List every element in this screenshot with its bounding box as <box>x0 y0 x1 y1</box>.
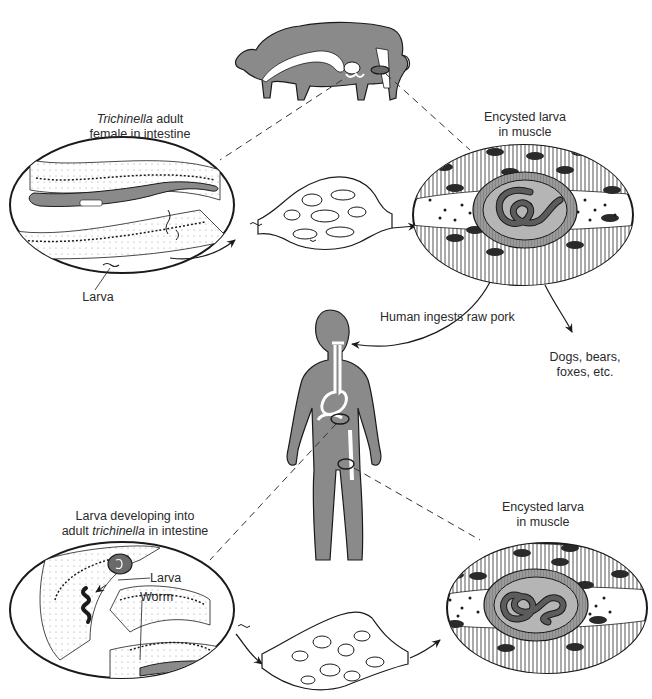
pig-intestine-caption: Trichinella adult female in intestine <box>70 112 210 142</box>
human-intestine-caption: Larva developing into adult trichinella … <box>60 509 210 539</box>
human-intestine-larva-label: Larva <box>150 571 186 586</box>
caption-text: Encysted larva <box>484 110 566 124</box>
larva-label: Larva <box>78 290 118 305</box>
human-ingests-label: Human ingests raw pork <box>380 310 510 325</box>
caption-text: Dogs, bears, <box>550 350 621 364</box>
caption-text: adult <box>153 112 184 126</box>
caption-text: in muscle <box>499 125 552 139</box>
human-muscle-caption: Encysted larva in muscle <box>488 500 598 530</box>
human-silhouette-icon <box>287 310 381 560</box>
pig-muscle-caption: Encysted larva in muscle <box>470 110 580 140</box>
pig-intestine-oval-icon <box>10 137 234 273</box>
arrow-vessel-to-muscle <box>392 226 416 228</box>
pig-vessel-network-icon <box>250 177 392 250</box>
other-hosts-label: Dogs, bears, foxes, etc. <box>545 350 625 380</box>
caption-text: Larva developing into <box>76 509 195 523</box>
human-intestine-worm-label: Worm <box>140 590 180 605</box>
arrow-to-other-hosts <box>545 285 572 332</box>
caption-text: female in intestine <box>90 127 191 141</box>
arrow-vessel-to-muscle <box>410 640 440 658</box>
pig-silhouette-icon <box>235 22 409 100</box>
caption-text: adult <box>62 524 93 538</box>
trichinella-life-cycle-diagram: Trichinella adult female in intestine En… <box>0 0 652 699</box>
human-vessel-network-icon <box>262 612 408 690</box>
caption-text: in muscle <box>517 515 570 529</box>
pig-connector-lines <box>220 74 470 160</box>
human-intestine-oval-icon <box>10 542 234 680</box>
pig-muscle-cyst-icon <box>410 143 640 290</box>
arrow-intestine-to-vessel <box>236 634 262 664</box>
caption-italic-text: trichinella <box>92 524 145 538</box>
caption-text: foxes, etc. <box>557 365 614 379</box>
caption-text: in intestine <box>145 524 208 538</box>
human-muscle-cyst-icon <box>440 543 650 680</box>
caption-text: Encysted larva <box>502 500 584 514</box>
caption-italic-text: Trichinella <box>97 112 153 126</box>
